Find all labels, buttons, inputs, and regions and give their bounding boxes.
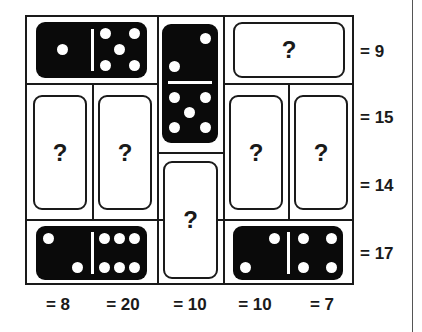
question-mark: ? <box>35 139 85 167</box>
question-mark: ? <box>100 139 150 167</box>
unknown-domino-middle-right-1[interactable]: ? <box>229 95 283 210</box>
grid-line <box>25 83 157 85</box>
pip <box>298 262 309 273</box>
domino-divider <box>91 232 94 274</box>
question-mark: ? <box>235 36 343 64</box>
column-sum-3: = 10 <box>160 295 220 315</box>
pip <box>100 28 111 39</box>
pip <box>129 262 140 273</box>
question-mark: ? <box>165 206 216 234</box>
pip <box>326 233 337 244</box>
grid-line <box>288 83 290 219</box>
column-sum-4: = 10 <box>225 295 285 315</box>
pip <box>169 61 180 72</box>
pip <box>169 122 180 133</box>
row-sum-3: = 14 <box>360 176 394 196</box>
row-sum-4: = 17 <box>360 244 394 264</box>
pip <box>240 262 251 273</box>
pip <box>169 92 180 103</box>
question-mark: ? <box>296 139 346 167</box>
row-sum-1: = 9 <box>360 42 384 62</box>
pip <box>129 28 140 39</box>
pip <box>99 262 110 273</box>
pip <box>43 233 54 244</box>
pip <box>200 33 211 44</box>
pip <box>100 60 111 71</box>
question-mark: ? <box>231 139 281 167</box>
pip <box>326 262 337 273</box>
pip <box>184 107 195 118</box>
domino-1-5 <box>36 22 147 78</box>
unknown-domino-top-right[interactable]: ? <box>233 22 345 78</box>
pip <box>200 92 211 103</box>
unknown-domino-lower-center[interactable]: ? <box>163 161 218 279</box>
domino-divider <box>91 29 94 71</box>
domino-divider <box>168 81 212 84</box>
domino-2-6 <box>36 226 147 280</box>
column-sum-1: = 8 <box>28 295 88 315</box>
pip <box>114 262 125 273</box>
grid-line <box>223 15 225 285</box>
pip <box>129 60 140 71</box>
grid-line <box>92 83 94 219</box>
pip <box>72 262 83 273</box>
pip <box>200 122 211 133</box>
column-sum-2: = 20 <box>93 295 153 315</box>
domino-divider <box>287 232 290 274</box>
grid-line <box>157 152 223 154</box>
pip <box>99 233 110 244</box>
pip <box>298 233 309 244</box>
unknown-domino-middle-left-1[interactable]: ? <box>33 95 87 210</box>
pip <box>129 233 140 244</box>
unknown-domino-middle-left-2[interactable]: ? <box>98 95 152 210</box>
domino-2-4 <box>233 226 343 280</box>
pip <box>114 44 125 55</box>
column-sum-5: = 7 <box>292 295 352 315</box>
unknown-domino-middle-right-2[interactable]: ? <box>294 95 348 210</box>
row-sum-2: = 15 <box>360 108 394 128</box>
domino-2-5 <box>162 24 218 143</box>
grid-line <box>157 15 159 285</box>
margin-rule <box>412 0 413 332</box>
pip <box>57 44 68 55</box>
pip <box>114 233 125 244</box>
pip <box>269 233 280 244</box>
